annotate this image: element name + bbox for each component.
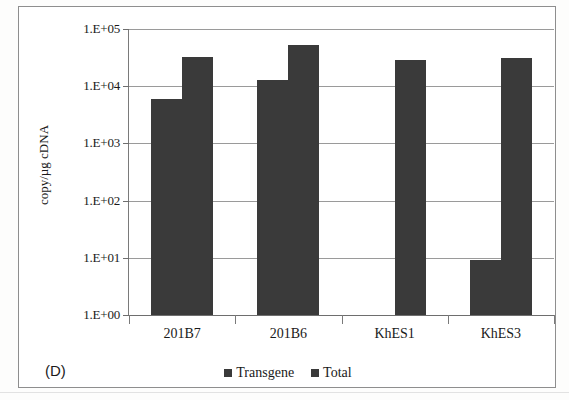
chart-legend: TransgeneTotal — [19, 365, 557, 381]
bar-201b7-total — [182, 57, 213, 315]
y-tick-label: 1.E+04 — [83, 78, 120, 94]
y-tick-label: 1.E+03 — [83, 135, 120, 151]
y-tick-mark — [123, 29, 129, 30]
bar-khes3-total — [501, 58, 532, 315]
scanned-figure-page: copy/µg cDNA 1.E+051.E+041.E+031.E+021.E… — [0, 0, 569, 400]
legend-swatch-icon — [224, 369, 232, 377]
figure-frame: copy/µg cDNA 1.E+051.E+041.E+031.E+021.E… — [18, 6, 556, 388]
y-axis-line — [128, 29, 129, 316]
x-tick-label-khes1: KhES1 — [374, 326, 414, 342]
legend-item-total: Total — [311, 365, 352, 381]
bar-201b7-transgene — [151, 99, 182, 315]
y-axis-title: copy/µg cDNA — [36, 80, 52, 250]
y-tick-label: 1.E+02 — [83, 193, 120, 209]
plot-area: 1.E+051.E+041.E+031.E+021.E+011.E+00 — [129, 29, 554, 315]
bar-khes1-total — [395, 60, 426, 315]
y-tick-label: 1.E+01 — [83, 250, 120, 266]
legend-swatch-icon — [311, 369, 319, 377]
x-tick-label-201b7: 201B7 — [163, 326, 200, 342]
legend-label: Transgene — [236, 365, 294, 381]
legend-item-transgene: Transgene — [224, 365, 294, 381]
legend-label: Total — [323, 365, 352, 381]
panel-label: (D) — [45, 362, 66, 379]
x-tick-mark — [235, 315, 236, 324]
y-tick-mark — [123, 258, 129, 259]
bar-201b6-transgene — [257, 80, 288, 315]
x-tick-mark — [554, 315, 555, 324]
gridline — [129, 29, 554, 30]
x-tick-mark — [129, 315, 130, 324]
x-tick-mark — [448, 315, 449, 324]
y-tick-label: 1.E+00 — [83, 307, 120, 323]
x-tick-label-201b6: 201B6 — [270, 326, 307, 342]
scan-edge-line — [0, 392, 569, 393]
x-tick-mark — [342, 315, 343, 324]
y-tick-mark — [123, 143, 129, 144]
x-tick-label-khes3: KhES3 — [481, 326, 521, 342]
y-tick-mark — [123, 86, 129, 87]
y-tick-mark — [123, 201, 129, 202]
y-tick-label: 1.E+05 — [83, 21, 120, 37]
bar-201b6-total — [288, 45, 319, 315]
bar-khes3-transgene — [470, 260, 501, 315]
